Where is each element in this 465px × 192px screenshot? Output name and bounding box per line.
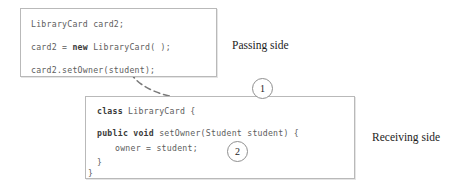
code-line: }: [97, 157, 102, 167]
step-marker-2: 2: [227, 141, 248, 162]
diagram-canvas: LibraryCard card2; card2 = new LibraryCa…: [0, 0, 465, 192]
passing-side-label: Passing side: [232, 39, 289, 51]
code-text: card2.setOwner(student);: [31, 65, 155, 75]
code-line: class LibraryCard {: [97, 106, 195, 116]
code-line: }: [88, 168, 93, 178]
code-text: }: [88, 168, 93, 178]
code-keyword: public void: [97, 128, 154, 138]
receiving-side-label: Receiving side: [372, 131, 440, 143]
code-text: }: [97, 157, 102, 167]
step-marker-1: 1: [252, 78, 273, 99]
code-line: LibraryCard card2;: [31, 19, 124, 29]
passing-side-code-box: LibraryCard card2; card2 = new LibraryCa…: [20, 8, 217, 77]
receiving-side-code-box: class LibraryCard { public void setOwner…: [85, 96, 355, 179]
code-text: LibraryCard {: [123, 106, 196, 116]
code-line: public void setOwner(Student student) {: [97, 128, 299, 138]
code-text: owner = student;: [115, 143, 198, 153]
code-text: LibraryCard card2;: [31, 19, 124, 29]
code-keyword: new: [72, 42, 88, 52]
code-line: card2 = new LibraryCard( );: [31, 42, 171, 52]
code-text: LibraryCard( );: [88, 42, 171, 52]
code-line: card2.setOwner(student);: [31, 65, 155, 75]
code-keyword: class: [97, 106, 123, 116]
code-text: card2 =: [31, 42, 72, 52]
code-line: owner = student;: [115, 143, 198, 153]
code-text: setOwner(Student student) {: [154, 128, 299, 138]
